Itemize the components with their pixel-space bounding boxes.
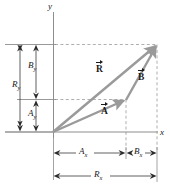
vector-b-label: B [138, 73, 144, 83]
vector-diagram-figure: y x R B A Ry By Ay Ax Bx Rx [0, 0, 170, 193]
vector-a-arrow [53, 101, 124, 133]
dimension-label-ay: Ay [28, 109, 36, 120]
arrowhead-by-bottom [33, 92, 39, 99]
dimension-label-by: By [28, 61, 36, 72]
dimension-label-by-sub: y [34, 65, 37, 72]
vector-a-label: A [101, 107, 108, 117]
dimension-label-bx: Bx [134, 147, 142, 158]
vector-diagram-canvas [0, 0, 170, 193]
vector-arrows [53, 46, 156, 132]
dimension-label-rx: Rx [94, 170, 102, 181]
dimension-extension-lines [5, 132, 54, 180]
arrowhead-bx-left [127, 150, 134, 156]
dimension-label-ry-sub: y [18, 84, 21, 91]
y-axis-label: y [48, 2, 52, 11]
dimension-label-rx-sub: x [100, 174, 103, 181]
vector-r-arrow [53, 46, 156, 132]
dimension-label-ax-sub: x [85, 151, 88, 158]
vector-b-label-text: B [138, 73, 144, 83]
dimension-label-ay-sub: y [34, 113, 37, 120]
vector-a-label-text: A [101, 107, 108, 117]
vector-r-label-text: R [96, 65, 103, 75]
construction-lines [55, 45, 157, 151]
dimension-label-bx-sub: x [140, 151, 143, 158]
vector-r-label: R [96, 65, 103, 75]
dimension-label-ax: Ax [79, 147, 87, 158]
x-axis-label: x [160, 128, 164, 137]
dimension-label-ry: Ry [12, 80, 20, 91]
